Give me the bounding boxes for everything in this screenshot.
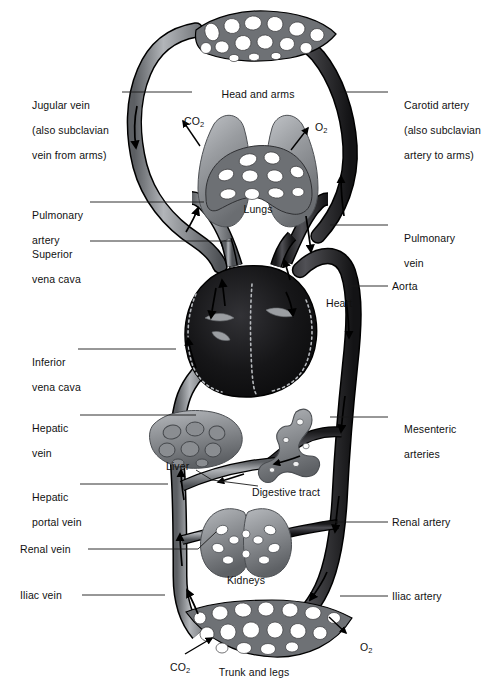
label-o2-trunk: O2 xyxy=(348,628,373,670)
label-o2-lungs: O2 xyxy=(303,108,328,150)
kidneys-organ xyxy=(201,509,292,578)
label-iliac-artery: Iliac artery xyxy=(392,590,442,603)
label-hepatic-vein: Hepatic vein xyxy=(20,409,68,472)
circulatory-system-diagram: Jugular vein (also subclavian vein from … xyxy=(0,0,489,700)
digestive-tract-organ xyxy=(258,409,319,482)
label-carotid-artery: Carotid artery (also subclavian artery t… xyxy=(392,86,481,174)
label-superior-vena-cava: Superior vena cava xyxy=(20,235,81,298)
label-renal-vein: Renal vein xyxy=(20,543,71,556)
label-aorta: Aorta xyxy=(392,280,418,293)
heart-organ xyxy=(185,236,317,397)
label-hepatic-portal-vein: Hepatic portal vein xyxy=(20,478,82,541)
label-co2-lungs: CO2 xyxy=(172,102,204,144)
trunk-and-legs-capillaries xyxy=(186,600,352,657)
liver-organ xyxy=(150,411,243,469)
label-mesenteric-arteries: Mesenteric arteries xyxy=(392,410,456,473)
label-head-and-arms: Head and arms xyxy=(200,88,316,101)
label-digestive-tract: Digestive tract xyxy=(252,486,320,499)
label-pulmonary-vein: Pulmonary vein xyxy=(392,219,455,282)
label-kidneys: Kidneys xyxy=(216,574,276,587)
label-trunk-and-legs: Trunk and legs xyxy=(202,666,306,679)
label-co2-trunk: CO2 xyxy=(158,648,190,690)
label-iliac-vein: Iliac vein xyxy=(20,589,62,602)
label-lungs: Lungs xyxy=(228,203,288,216)
label-heart: Heart xyxy=(326,297,352,310)
label-jugular-vein: Jugular vein (also subclavian vein from … xyxy=(20,86,109,174)
label-renal-artery: Renal artery xyxy=(392,516,450,529)
label-inferior-vena-cava: Inferior vena cava xyxy=(20,343,81,406)
label-liver: Liver xyxy=(166,460,189,473)
